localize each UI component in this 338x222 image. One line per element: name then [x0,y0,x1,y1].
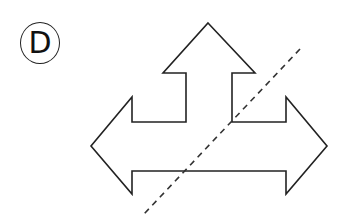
three-way-arrow-shape [91,23,327,194]
arrow-diagram [0,0,338,222]
figure-canvas: D [0,0,338,222]
